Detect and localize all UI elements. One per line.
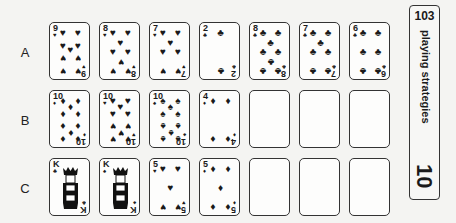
hearts-suit-icon: ♥ <box>153 168 157 174</box>
diamonds-suit-icon: ♦ <box>233 200 236 206</box>
hearts-pip-icon: ♥ <box>73 53 83 63</box>
clubs-pip-icon: ♣ <box>373 66 383 76</box>
clubs-pip-icon: ♣ <box>323 28 333 38</box>
card-5-of-diamonds: 5♦5♦♦♦♦♦♦ <box>199 158 240 216</box>
clubs-pip-icon: ♣ <box>308 47 318 57</box>
clubs-pip-icon: ♣ <box>273 28 283 38</box>
card-pips: ♥♥♥♥♥ <box>158 164 183 212</box>
hearts-pip-icon: ♥ <box>116 38 126 48</box>
spades-suit-icon: ♠ <box>153 100 156 106</box>
card-7-of-clubs: 7♣7♣♣♣♣♣♣♣♣ <box>299 22 340 80</box>
diamonds-pip-icon: ♦ <box>73 134 83 144</box>
row-label-b: B <box>18 113 32 128</box>
empty-card-slot <box>249 158 290 216</box>
hearts-pip-icon: ♥ <box>158 202 168 212</box>
section-tab: 103 playing strategies 10 <box>409 5 440 200</box>
king-figure-icon <box>110 166 131 210</box>
diamonds-suit-icon: ♦ <box>203 100 206 106</box>
diamonds-suit-icon: ♦ <box>233 132 236 138</box>
card-6-of-clubs: 6♣6♣♣♣♣♣♣♣ <box>349 22 390 80</box>
clubs-suit-icon: ♣ <box>253 32 257 38</box>
clubs-pip-icon: ♣ <box>316 38 326 48</box>
empty-card-slot <box>349 158 390 216</box>
hearts-suit-icon: ♥ <box>103 32 107 38</box>
card-2-of-clubs: 2♣2♣♣♣ <box>199 22 240 80</box>
diamonds-pip-icon: ♦ <box>216 183 226 193</box>
hearts-pip-icon: ♥ <box>123 28 133 38</box>
spades-pip-icon: ♠ <box>173 134 183 144</box>
card-pips: ♠♠♠♠♠♠♠♠♠♠ <box>158 96 183 144</box>
hearts-pip-icon: ♥ <box>73 28 83 38</box>
card-k-of-clubs: K♣K♣ <box>49 158 90 216</box>
card-10-of-diamonds: 10♦10♦♦♦♦♦♦♦♦♦♦♦ <box>49 90 90 148</box>
clubs-pip-icon: ♣ <box>216 28 226 38</box>
diamonds-suit-icon: ♦ <box>53 100 56 106</box>
clubs-pip-icon: ♣ <box>216 66 226 76</box>
card-pips: ♥♥♥♥♥♥♥♥♥ <box>58 28 83 76</box>
hearts-pip-icon: ♥ <box>58 53 68 63</box>
hearts-pip-icon: ♥ <box>158 164 168 174</box>
hearts-pip-icon: ♥ <box>108 66 118 76</box>
hearts-pip-icon: ♥ <box>173 28 183 38</box>
card-pips: ♦♦♦♦ <box>208 96 233 144</box>
hearts-pip-icon: ♥ <box>116 57 126 67</box>
diamonds-pip-icon: ♦ <box>58 109 68 119</box>
diamonds-pip-icon: ♦ <box>208 134 218 144</box>
hearts-pip-icon: ♥ <box>58 66 68 76</box>
row-label-c: C <box>18 181 32 196</box>
card-pips: ♣♣♣♣♣♣♣ <box>308 28 333 76</box>
card-9-of-hearts: 9♥9♥♥♥♥♥♥♥♥♥♥ <box>49 22 90 80</box>
hearts-pip-icon: ♥ <box>158 28 168 38</box>
section-title: playing strategies <box>420 30 432 124</box>
card-10-of-spades: 10♠10♠♠♠♠♠♠♠♠♠♠♠ <box>149 90 190 148</box>
hearts-pip-icon: ♥ <box>166 183 176 193</box>
hearts-pip-icon: ♥ <box>58 28 68 38</box>
card-5-of-hearts: 5♥5♥♥♥♥♥♥ <box>149 158 190 216</box>
diamonds-suit-icon: ♦ <box>83 132 86 138</box>
spades-suit-icon: ♠ <box>103 168 106 174</box>
diamonds-pip-icon: ♦ <box>208 202 218 212</box>
clubs-suit-icon: ♣ <box>53 168 57 174</box>
clubs-suit-icon: ♣ <box>353 32 357 38</box>
clubs-pip-icon: ♣ <box>358 28 368 38</box>
hearts-pip-icon: ♥ <box>108 28 118 38</box>
diamonds-pip-icon: ♦ <box>223 164 233 174</box>
spades-pip-icon: ♠ <box>173 109 183 119</box>
card-pips: ♣♣ <box>208 28 233 76</box>
hearts-pip-icon: ♥ <box>158 66 168 76</box>
diamonds-pip-icon: ♦ <box>223 96 233 106</box>
spades-suit-icon: ♠ <box>183 132 186 138</box>
card-pips: ♦♦♦♦♦ <box>208 164 233 212</box>
hearts-pip-icon: ♥ <box>173 47 183 57</box>
card-7-of-hearts: 7♥7♥♥♥♥♥♥♥♥ <box>149 22 190 80</box>
diamonds-pip-icon: ♦ <box>223 202 233 212</box>
clubs-pip-icon: ♣ <box>358 47 368 57</box>
clubs-pip-icon: ♣ <box>373 47 383 57</box>
clubs-pip-icon: ♣ <box>273 66 283 76</box>
clubs-pip-icon: ♣ <box>308 66 318 76</box>
hearts-pip-icon: ♥ <box>108 109 118 119</box>
hearts-pip-icon: ♥ <box>123 109 133 119</box>
card-8-of-clubs: 8♣8♣♣♣♣♣♣♣♣♣ <box>249 22 290 80</box>
section-number: 103 <box>410 9 439 23</box>
hearts-pip-icon: ♥ <box>123 66 133 76</box>
card-8-of-hearts: 8♥8♥♥♥♥♥♥♥♥♥ <box>99 22 140 80</box>
clubs-pip-icon: ♣ <box>358 66 368 76</box>
diamonds-pip-icon: ♦ <box>208 96 218 106</box>
spades-pip-icon: ♠ <box>158 134 168 144</box>
card-pips: ♥♥♥♥♥♥♥♥♥♥ <box>108 96 133 144</box>
hearts-pip-icon: ♥ <box>173 66 183 76</box>
spades-suit-icon: ♠ <box>133 200 136 206</box>
page-number: 10 <box>411 164 437 188</box>
clubs-pip-icon: ♣ <box>323 66 333 76</box>
hearts-pip-icon: ♥ <box>108 47 118 57</box>
row-label-a: A <box>18 45 32 60</box>
diamonds-pip-icon: ♦ <box>73 109 83 119</box>
card-pips: ♣♣♣♣♣♣♣♣ <box>258 28 283 76</box>
hearts-pip-icon: ♥ <box>123 134 133 144</box>
spades-pip-icon: ♠ <box>158 109 168 119</box>
hearts-suit-icon: ♥ <box>53 32 57 38</box>
clubs-pip-icon: ♣ <box>266 57 276 67</box>
card-pips: ♦♦♦♦♦♦♦♦♦♦ <box>58 96 83 144</box>
card-k-of-spades: K♠K♠ <box>99 158 140 216</box>
